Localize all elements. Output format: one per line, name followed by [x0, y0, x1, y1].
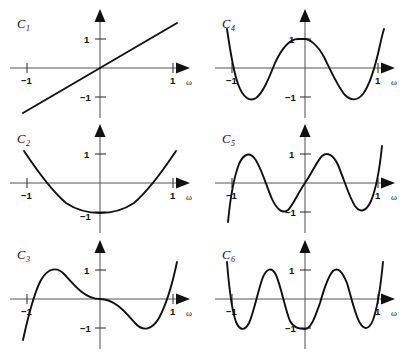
panel-c3: −1 1 1 −1 ω C 3 [0, 237, 204, 356]
x-axis-label: ω [186, 308, 192, 318]
axes-c2 [10, 124, 190, 233]
y-axis-arrowhead [300, 9, 311, 22]
curve-label-c5: C [222, 132, 231, 146]
panel-c4: −1 1 1 −1 ω C 4 [205, 6, 409, 125]
y-tick-label-neg-one: −1 [285, 92, 297, 103]
panel-c5: −1 1 1 −1 ω C 5 [205, 121, 409, 240]
y-axis-arrowhead [95, 240, 106, 253]
y-tick-label-neg-one: −1 [80, 323, 92, 334]
plot-c5: −1 1 1 −1 ω C 5 [205, 121, 409, 240]
x-axis-arrowhead [381, 178, 395, 189]
y-tick-label-pos-one: 1 [84, 149, 90, 160]
x-axis-arrowhead [381, 294, 395, 305]
curve-label-c3-subscript: 3 [25, 255, 30, 264]
curve-label-c2: C [17, 132, 26, 146]
x-tick-label-pos-one: 1 [375, 75, 381, 86]
axes-c5 [215, 124, 395, 233]
y-tick-label-neg-one: −1 [80, 92, 92, 103]
x-axis-arrowhead [176, 178, 190, 189]
x-tick-label-pos-one: 1 [170, 190, 176, 201]
plot-c6: −1 1 1 −1 ω C 6 [205, 237, 409, 356]
axes-c3 [10, 240, 190, 349]
curve-label-c6: C [222, 248, 231, 262]
x-axis-arrowhead [176, 63, 190, 74]
axes-c1 [10, 9, 190, 118]
curve-label-c2-subscript: 2 [26, 139, 30, 148]
panel-c1: −1 1 1 −1 ω C 1 [0, 6, 204, 125]
x-tick-label-pos-one: 1 [375, 190, 381, 201]
x-axis-arrowhead [176, 294, 190, 305]
x-tick-label-pos-one: 1 [170, 75, 176, 86]
y-axis-arrowhead [95, 9, 106, 22]
curve-label-c5-subscript: 5 [231, 139, 235, 148]
curve-label-c6-subscript: 6 [231, 255, 235, 264]
x-axis-arrowhead [381, 63, 395, 74]
x-axis-label: ω [391, 192, 397, 202]
curve-label-c1: C [17, 17, 26, 31]
axes-c6 [215, 240, 395, 349]
curve-label-c1-subscript: 1 [26, 24, 30, 33]
curve-label-c4-subscript: 4 [231, 24, 235, 33]
y-tick-label-pos-one: 1 [84, 34, 90, 45]
x-tick-label-pos-one: 1 [170, 306, 176, 317]
panel-c6: −1 1 1 −1 ω C 6 [205, 237, 409, 356]
panel-c2: −1 1 1 −1 ω C 2 [0, 121, 204, 240]
x-axis-label: ω [186, 77, 192, 87]
plot-c4: −1 1 1 −1 ω C 4 [205, 6, 409, 125]
x-tick-label-neg-one: −1 [21, 190, 33, 201]
axes-c4 [215, 9, 395, 118]
plot-c1: −1 1 1 −1 ω C 1 [0, 6, 204, 125]
y-axis-arrowhead [95, 124, 106, 137]
x-axis-label: ω [391, 308, 397, 318]
y-tick-label-neg-one: −1 [285, 323, 297, 334]
y-tick-label-pos-one: 1 [289, 149, 295, 160]
chebyshev-polynomial-figure: −1 1 1 −1 ω C 1 −1 1 1 −1 [0, 0, 409, 357]
y-tick-label-neg-one: −1 [285, 207, 297, 218]
x-axis-label: ω [391, 77, 397, 87]
curve-label-c3: C [17, 248, 26, 262]
y-tick-label-pos-one: 1 [84, 265, 90, 276]
x-tick-label-neg-one: −1 [21, 75, 33, 86]
y-axis-arrowhead [300, 240, 311, 253]
x-axis-label: ω [186, 192, 192, 202]
y-axis-arrowhead [300, 124, 311, 137]
plot-c2: −1 1 1 −1 ω C 2 [0, 121, 204, 240]
y-tick-label-pos-one: 1 [289, 265, 295, 276]
plot-c3: −1 1 1 −1 ω C 3 [0, 237, 204, 356]
